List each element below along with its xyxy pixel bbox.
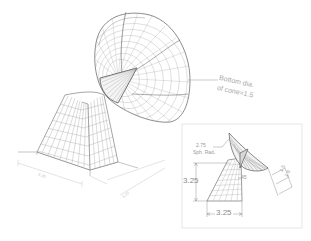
pedestal [37,92,118,170]
inset-base-dimension: 3.25 [215,209,233,217]
technical-drawing [0,0,311,241]
sphere-radius-label: Sph. Rad. [193,150,215,155]
inset-angle-dimension: 45 [241,175,247,180]
inset-height-dimension: 3.25 [183,177,199,185]
sphere-radius-value: 2.75 [196,143,206,148]
